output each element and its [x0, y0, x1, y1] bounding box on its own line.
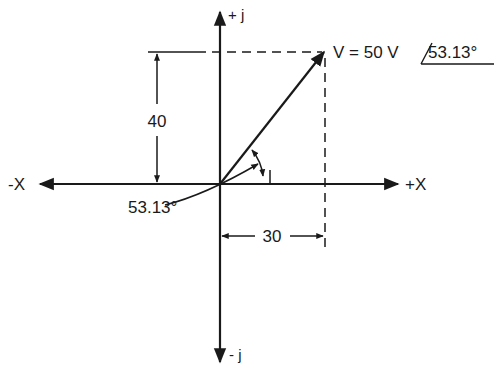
angle-arc-upper — [252, 150, 263, 176]
vector-label: V = 50 V — [333, 43, 399, 62]
dimension-horizontal-label: 30 — [263, 227, 282, 246]
axis-label-pos-j: + j — [228, 6, 244, 23]
phasor-diagram: 40 30 + j - j +X -X V = 50 V 53.13° 53.1… — [0, 0, 497, 377]
axis-label-neg-x: -X — [8, 175, 25, 194]
dimension-vertical-label: 40 — [148, 112, 167, 131]
axis-label-pos-x: +X — [405, 175, 426, 194]
angle-callout: 53.13° — [128, 198, 177, 217]
axis-label-neg-j: - j — [229, 346, 242, 363]
phasor-vector — [220, 52, 324, 184]
vector-angle: 53.13° — [428, 43, 477, 62]
